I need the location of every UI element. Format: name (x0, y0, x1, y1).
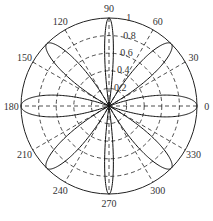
r-tick-label: 0.2 (114, 82, 127, 93)
theta-tick-label: 30 (189, 52, 199, 63)
r-tick-label: 0.6 (120, 47, 133, 58)
theta-tick-label: 180 (4, 101, 19, 112)
theta-tick-label: 150 (17, 52, 32, 63)
polar-plot: 03060901201501802102402703003300.20.40.6… (0, 0, 213, 221)
theta-tick-label: 270 (102, 198, 117, 209)
r-tick-label: 0.4 (117, 64, 130, 75)
r-tick-label: 0.8 (123, 30, 135, 41)
theta-tick-label: 0 (204, 101, 209, 112)
theta-tick-label: 300 (150, 185, 165, 196)
theta-tick-label: 330 (186, 149, 201, 160)
theta-tick-label: 240 (53, 185, 68, 196)
theta-tick-label: 210 (17, 149, 32, 160)
theta-tick-label: 60 (153, 16, 163, 27)
r-tick-label: 1 (126, 12, 131, 23)
theta-tick-label: 120 (53, 16, 68, 27)
theta-tick-label: 90 (104, 3, 114, 14)
